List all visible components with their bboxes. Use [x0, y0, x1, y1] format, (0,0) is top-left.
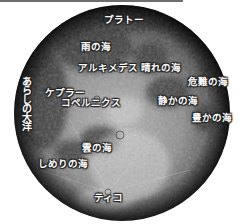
- label-plato: プラトー: [104, 15, 144, 25]
- label-mare-nubium: 雲の海: [82, 143, 112, 153]
- label-mare-tranquillitatis: 静かの海: [158, 96, 198, 106]
- label-mare-crisium: 危難の海: [188, 77, 228, 87]
- label-mare-imbrium: 雨の海: [81, 42, 111, 52]
- label-tycho: ティコ: [94, 193, 123, 203]
- label-mare-serenitatis: 晴れの海: [141, 63, 181, 73]
- label-mare-humorum: しめりの海: [38, 159, 88, 169]
- label-oceanus-procellarum: あらしの大洋: [20, 76, 30, 130]
- label-archimedes: アルキメデス: [78, 63, 138, 73]
- label-copernicus: コペルニクス: [61, 98, 121, 108]
- label-mare-fecunditatis: 豊かの海: [192, 113, 232, 123]
